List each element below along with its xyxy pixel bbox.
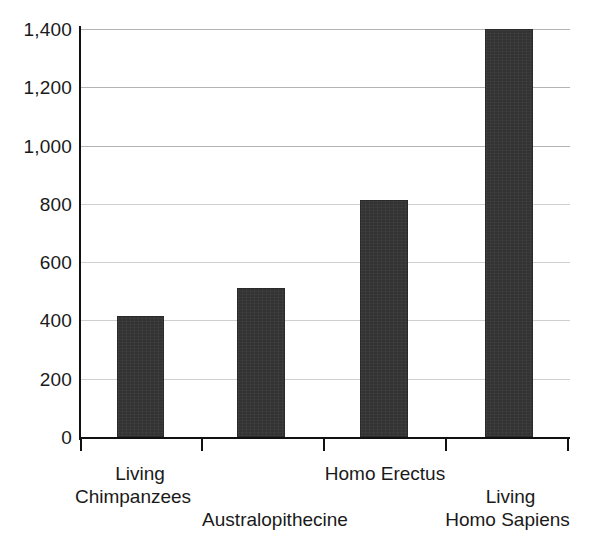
- plot-area: [81, 29, 570, 437]
- x-tick-0: [80, 438, 82, 451]
- y-tick-label-200: 200: [0, 370, 72, 389]
- y-tick-label-600: 600: [0, 253, 72, 272]
- category-label-homo-erectus: Homo Erectus: [310, 462, 460, 485]
- category-label-living-homo-sapiens-line2: Homo Sapiens: [425, 508, 590, 531]
- bar-living-chimpanzees: [117, 316, 164, 437]
- y-axis-line: [79, 26, 81, 440]
- category-label-australopithecine: Australopithecine: [180, 508, 370, 531]
- y-tick-label-800: 800: [0, 195, 72, 214]
- category-label-living-chimpanzees-line1: Living: [60, 462, 220, 485]
- x-tick-4: [567, 438, 569, 451]
- y-tick-label-0: 0: [0, 428, 72, 447]
- y-tick-label-1000: 1,000: [0, 137, 72, 156]
- x-tick-1: [201, 438, 203, 451]
- bar-chart: 1,400 1,200 1,000 800 600 400 200 0 Livi…: [0, 0, 594, 555]
- y-tick-label-400: 400: [0, 311, 72, 330]
- bar-australopithecine: [237, 288, 285, 437]
- y-tick-label-1200: 1,200: [0, 78, 72, 97]
- category-label-living-chimpanzees-line2: Chimpanzees: [53, 485, 213, 508]
- category-label-living-homo-sapiens-line1: Living: [438, 485, 583, 508]
- x-tick-2: [323, 438, 325, 451]
- bar-homo-erectus: [360, 200, 408, 438]
- x-tick-3: [445, 438, 447, 451]
- bar-living-homo-sapiens: [485, 29, 533, 437]
- y-tick-label-1400: 1,400: [0, 20, 72, 39]
